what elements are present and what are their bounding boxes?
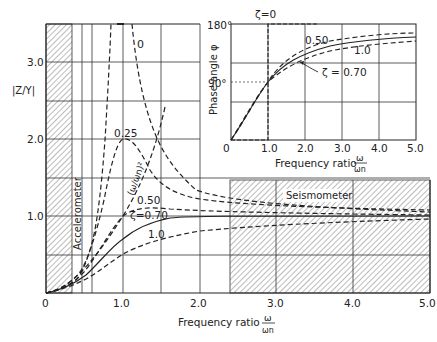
y-tick-2: 2.0 — [27, 133, 44, 145]
accelerometer-region — [46, 24, 72, 293]
inset-x-tick-5: 5.0 — [407, 142, 424, 154]
main-x-ticks: 0 1.0 2.0 3.0 4.0 5.0 — [42, 297, 436, 309]
curve-label-070: ζ=0.70 — [130, 209, 168, 221]
curve-label-omega-squared: (ω/ωn)² — [125, 161, 146, 197]
inset-x-tick-3: 3.0 — [334, 142, 351, 154]
x-tick-1: 1.0 — [113, 297, 130, 309]
main-x-omega-n: ωn — [262, 326, 274, 335]
phase-inset: Phase angle φ 180° 90° ζ=0 0.50 1.0 ζ = … — [204, 4, 437, 174]
x-tick-4: 4.0 — [344, 297, 361, 309]
main-y-axis-label: |Z/Y| — [12, 85, 35, 97]
inset-label-zeta-0: ζ=0 — [255, 8, 276, 20]
inset-y-tick-90: 90° — [208, 77, 227, 89]
x-tick-2: 2.0 — [190, 297, 207, 309]
y-tick-3: 3.0 — [27, 56, 44, 68]
main-x-omega: ω — [264, 313, 272, 323]
inset-x-omega-n: ωn — [354, 165, 366, 174]
inset-label-070: ζ = 0.70 — [322, 66, 367, 78]
inset-label-050: 0.50 — [305, 34, 328, 46]
accelerometer-label: Accelerometer — [72, 176, 83, 250]
inset-label-10: 1.0 — [354, 44, 371, 56]
curve-label-050: 0.50 — [137, 194, 160, 206]
inset-x-omega: ω — [356, 153, 364, 163]
main-x-axis-label: Frequency ratio — [178, 316, 260, 328]
seismometer-label: Seismometer — [286, 190, 353, 201]
x-tick-3: 3.0 — [267, 297, 284, 309]
curve-label-10: 1.0 — [148, 228, 165, 240]
inset-x-tick-2: 2.0 — [297, 142, 314, 154]
curve-label-025: 0.25 — [114, 127, 137, 139]
inset-y-tick-180: 180° — [207, 19, 232, 31]
main-y-ticks: 1.0 2.0 3.0 — [27, 56, 44, 222]
inset-x-tick-1: 1.0 — [261, 142, 278, 154]
inset-x-tick-0: 0 — [223, 142, 230, 154]
inset-x-axis-label: Frequency ratio — [275, 157, 357, 169]
y-tick-1: 1.0 — [27, 210, 44, 222]
inset-x-tick-4: 4.0 — [371, 142, 388, 154]
x-tick-0: 0 — [42, 297, 49, 309]
curve-label-0: 0 — [137, 38, 144, 51]
x-tick-5: 5.0 — [419, 297, 436, 309]
chart-canvas: 0 1.0 2.0 3.0 4.0 5.0 1.0 2.0 3.0 |Z/Y| … — [0, 0, 437, 342]
